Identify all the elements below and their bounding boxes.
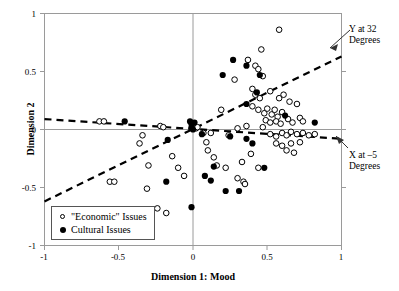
y-tick-label: -1 — [13, 241, 36, 251]
data-point-cultural — [188, 204, 194, 210]
legend-item-economic: "Economic" Issues — [57, 210, 147, 223]
data-point-economic — [137, 141, 143, 147]
data-point-cultural — [257, 72, 263, 78]
data-point-economic — [273, 134, 279, 140]
data-point-economic — [294, 131, 300, 137]
data-point-economic — [204, 139, 210, 145]
data-point-economic — [294, 101, 300, 107]
data-point-cultural — [165, 137, 171, 143]
data-point-economic — [235, 126, 241, 132]
data-point-economic — [300, 119, 306, 125]
x-axis-title: Dimension 1: Mood — [151, 271, 235, 282]
data-point-economic — [267, 131, 273, 137]
x-tick-label: 1 — [339, 252, 344, 262]
data-point-economic — [300, 130, 306, 136]
x-tick-label: -1 — [40, 252, 48, 262]
data-point-economic — [272, 107, 278, 113]
data-point-economic — [244, 123, 250, 129]
data-point-cultural — [211, 164, 217, 170]
data-point-economic — [242, 181, 248, 187]
x-tick-label: 0 — [191, 252, 196, 262]
data-point-economic — [208, 130, 214, 136]
annotation-x5-line1: X at –5 — [349, 150, 380, 161]
annotation-y32-line2: Degrees — [349, 35, 380, 46]
data-point-economic — [290, 120, 296, 126]
data-point-cultural — [254, 89, 260, 95]
data-point-cultural — [282, 112, 288, 118]
data-point-economic — [257, 95, 263, 101]
data-point-economic — [112, 179, 118, 185]
data-point-cultural — [243, 63, 249, 69]
data-point-economic — [101, 119, 107, 125]
data-point-cultural — [243, 136, 249, 142]
annotation-y-at-32: Y at 32 Degrees — [349, 24, 380, 46]
data-point-economic — [297, 139, 303, 145]
data-point-economic — [278, 121, 284, 127]
data-point-economic — [256, 165, 262, 171]
data-point-economic — [312, 131, 318, 137]
data-point-economic — [259, 47, 265, 53]
data-point-cultural — [261, 165, 267, 171]
data-point-economic — [235, 175, 241, 181]
data-point-economic — [232, 77, 238, 83]
filled-circle-icon — [57, 227, 68, 233]
data-point-economic — [287, 99, 293, 105]
data-point-economic — [267, 120, 273, 126]
data-point-cultural — [190, 126, 196, 132]
plot-canvas — [0, 0, 399, 291]
data-point-economic — [288, 141, 294, 147]
x-tick-label: 0.5 — [261, 252, 272, 262]
open-circle-icon — [57, 214, 68, 219]
data-point-economic — [256, 66, 262, 72]
scatter-chart-figure: -1 -0.5 0 0.5 1 1 0.5 0 -0.5 -1 Dimensio… — [0, 0, 399, 291]
data-point-cultural — [191, 119, 197, 125]
y-axis-title: Dimension 2 — [25, 102, 36, 155]
data-point-economic — [140, 133, 146, 139]
data-point-economic — [273, 141, 279, 147]
data-point-economic — [155, 206, 161, 212]
y-tick-label: -0.5 — [13, 183, 36, 193]
legend-label-economic: "Economic" Issues — [71, 211, 147, 222]
data-point-cultural — [199, 131, 205, 137]
data-point-economic — [218, 107, 224, 113]
y-tick-label: 0.5 — [16, 67, 36, 77]
data-point-economic — [223, 165, 229, 171]
data-point-economic — [281, 92, 287, 98]
data-point-economic — [279, 143, 285, 149]
annotation-x5-line2: Degrees — [349, 161, 380, 172]
data-point-economic — [248, 151, 254, 157]
data-point-economic — [205, 148, 211, 154]
data-point-cultural — [236, 188, 242, 194]
data-point-economic — [239, 159, 245, 165]
x-tick-label: -0.5 — [111, 252, 125, 262]
data-point-cultural — [243, 101, 249, 107]
annotation-y32-line1: Y at 32 — [349, 24, 380, 35]
data-point-economic — [264, 106, 270, 112]
data-point-economic — [245, 57, 251, 63]
data-point-economic — [260, 124, 266, 130]
data-point-economic — [169, 153, 175, 159]
data-point-cultural — [223, 188, 229, 194]
data-point-cultural — [202, 173, 208, 179]
data-point-economic — [256, 107, 262, 113]
annotation-x-at-minus-5: X at –5 Degrees — [349, 150, 380, 172]
data-point-economic — [250, 104, 256, 110]
data-point-economic — [291, 150, 297, 156]
data-point-cultural — [220, 72, 226, 78]
data-point-economic — [276, 27, 282, 33]
data-point-economic — [144, 186, 150, 192]
y-tick-label: 1 — [16, 9, 36, 19]
data-point-economic — [284, 148, 290, 154]
data-point-economic — [267, 88, 273, 94]
data-point-cultural — [208, 177, 214, 183]
legend-item-cultural: Cultural Issues — [57, 223, 147, 236]
data-point-economic — [163, 210, 169, 216]
data-point-cultural — [230, 57, 236, 63]
data-point-cultural — [122, 118, 128, 124]
data-point-economic — [181, 173, 187, 179]
data-point-cultural — [163, 179, 169, 185]
data-point-cultural — [312, 119, 318, 125]
data-point-economic — [211, 155, 217, 161]
data-point-economic — [161, 124, 167, 130]
data-point-cultural — [249, 140, 255, 146]
